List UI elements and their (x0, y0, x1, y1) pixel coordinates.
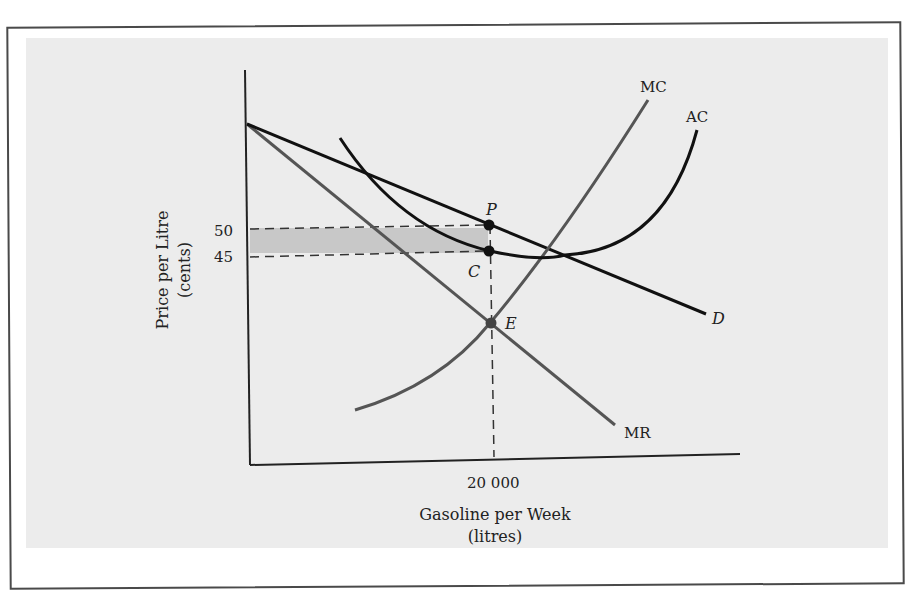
demand-curve (247, 124, 706, 314)
label-c: C (468, 262, 480, 281)
mr-curve (247, 124, 615, 425)
label-mr: MR (624, 424, 651, 442)
label-d: D (711, 309, 725, 328)
label-p: P (485, 200, 497, 219)
mc-curve (355, 100, 648, 410)
y-axis (245, 70, 250, 465)
monopoly-chart: P C E MC AC D MR 50 45 20 000 Price per … (0, 0, 913, 596)
x-tick-20000: 20 000 (467, 474, 520, 492)
y-axis-title-line2: (cents) (175, 242, 194, 298)
x-axis-title-line1: Gasoline per Week (419, 505, 571, 524)
guide-20000 (490, 225, 494, 457)
y-tick-45: 45 (214, 248, 233, 266)
point-p (484, 220, 495, 231)
y-tick-50: 50 (214, 222, 233, 240)
label-ac: AC (685, 108, 708, 126)
label-mc: MC (640, 78, 667, 96)
profit-area (250, 228, 488, 253)
y-axis-title-line1: Price per Litre (153, 211, 172, 330)
x-axis (250, 454, 740, 465)
label-e: E (504, 314, 517, 333)
x-axis-title-line2: (litres) (468, 527, 522, 546)
point-e (486, 318, 497, 329)
point-c (484, 246, 495, 257)
